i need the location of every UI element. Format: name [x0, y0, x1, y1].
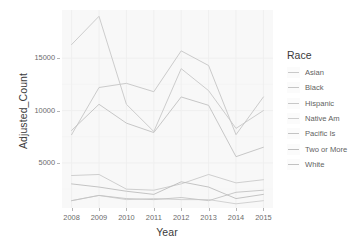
plot-lines — [62, 10, 273, 208]
legend-item-label: Black — [305, 83, 324, 92]
x-axis-title: Year — [62, 226, 272, 238]
line-chart: Adjusted_Count 50001000015000 2008200920… — [0, 0, 357, 247]
legend-line-swatch-icon — [287, 82, 300, 93]
x-tick-label: 2011 — [140, 213, 168, 222]
legend-item-two-or-more[interactable]: Two or More — [287, 143, 347, 156]
x-tick-mark — [263, 208, 264, 211]
legend-item-label: Hispanic — [305, 99, 334, 108]
legend-item-label: Two or More — [305, 145, 347, 154]
legend-item-label: Pacific Is — [305, 129, 335, 138]
legend-item-label: Asian — [305, 68, 324, 77]
legend-line-swatch-icon — [287, 159, 300, 170]
legend-item-native-am[interactable]: Native Am — [287, 112, 340, 125]
y-tick-mark — [57, 163, 60, 164]
legend-line-swatch-icon — [287, 144, 300, 155]
x-tick-label: 2010 — [112, 213, 140, 222]
y-tick-label: 10000 — [21, 106, 55, 115]
x-tick-label: 2008 — [58, 213, 86, 222]
y-tick-label: 5000 — [21, 158, 55, 167]
x-tick-mark — [209, 208, 210, 211]
x-tick-mark — [181, 208, 182, 211]
x-tick-label: 2015 — [249, 213, 277, 222]
legend-line-swatch-icon — [287, 113, 300, 124]
x-tick-label: 2012 — [167, 213, 195, 222]
legend-item-label: White — [305, 160, 324, 169]
x-tick-label: 2013 — [195, 213, 223, 222]
legend-item-white[interactable]: White — [287, 158, 324, 171]
x-tick-mark — [126, 208, 127, 211]
x-tick-label: 2009 — [85, 213, 113, 222]
legend-item-hispanic[interactable]: Hispanic — [287, 97, 334, 110]
legend-line-swatch-icon — [287, 67, 300, 78]
x-tick-mark — [236, 208, 237, 211]
legend-item-asian[interactable]: Asian — [287, 66, 324, 79]
legend-item-pacific-is[interactable]: Pacific Is — [287, 127, 335, 140]
legend-line-swatch-icon — [287, 128, 300, 139]
plot-panel — [62, 10, 273, 208]
y-tick-mark — [57, 111, 60, 112]
legend-item-label: Native Am — [305, 114, 340, 123]
y-tick-mark — [57, 58, 60, 59]
series-lines — [72, 16, 264, 204]
x-tick-mark — [72, 208, 73, 211]
series-line — [72, 195, 264, 203]
legend-title: Race — [287, 49, 312, 61]
y-tick-label: 15000 — [21, 53, 55, 62]
legend-item-black[interactable]: Black — [287, 81, 324, 94]
x-tick-mark — [99, 208, 100, 211]
series-line — [72, 51, 264, 135]
x-tick-mark — [154, 208, 155, 211]
legend-line-swatch-icon — [287, 98, 300, 109]
x-tick-label: 2014 — [222, 213, 250, 222]
